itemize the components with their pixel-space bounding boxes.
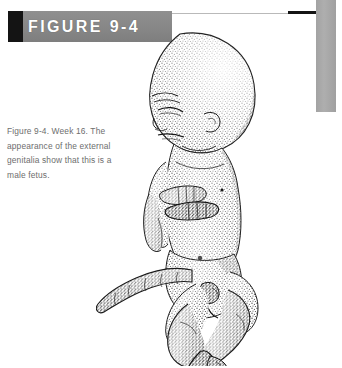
- fetus-head: [136, 22, 276, 172]
- fetus-illustration-svg: [96, 22, 324, 366]
- figure-page: FIGURE 9-4 Figure 9-4. Week 16. The appe…: [0, 0, 342, 368]
- figure-banner-block: [8, 11, 23, 42]
- fetus-illustration: [96, 22, 324, 366]
